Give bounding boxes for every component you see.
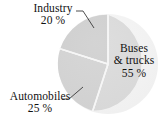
pie-label-industry-percent: 20 % xyxy=(22,14,84,26)
pie-label-automobiles: Automobiles 25 % xyxy=(0,90,80,115)
pie-label-buses-trucks: Buses & trucks 55 % xyxy=(110,42,158,79)
pie-label-buses-trucks-name-line2: & trucks xyxy=(110,54,158,66)
pie-label-buses-trucks-name-line1: Buses xyxy=(110,42,158,54)
pie-chart-figure: Industry 20 % Automobiles 25 % Buses & t… xyxy=(0,0,165,128)
pie-label-buses-trucks-percent: 55 % xyxy=(110,67,158,79)
pie-label-automobiles-name: Automobiles xyxy=(0,90,80,102)
pie-label-industry: Industry 20 % xyxy=(22,2,84,27)
pie-label-industry-name: Industry xyxy=(22,2,84,14)
pie-label-automobiles-percent: 25 % xyxy=(0,102,80,114)
